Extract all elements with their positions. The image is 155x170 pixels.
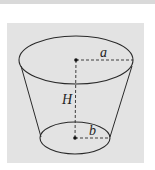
bottom-center-point (73, 136, 77, 140)
height-line (75, 60, 76, 138)
label-a: a (100, 45, 107, 60)
left-slant-edge (21, 66, 41, 137)
label-b: b (89, 123, 96, 138)
top-center-point (74, 58, 78, 62)
label-H: H (61, 92, 73, 107)
right-slant-edge (110, 66, 132, 137)
frustum-diagram: a H b (0, 0, 155, 170)
